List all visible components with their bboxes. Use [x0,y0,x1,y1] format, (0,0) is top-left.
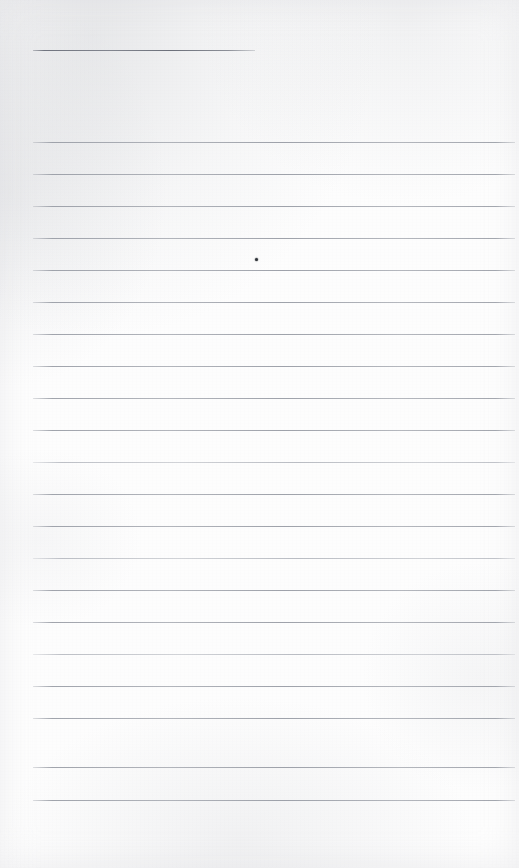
ruled-line [33,430,515,431]
ruled-line [33,462,515,463]
paper-background [0,0,519,868]
ruled-line [33,526,515,527]
pen-dot [255,258,258,261]
ruled-line [33,238,515,239]
ruled-line [33,142,515,143]
ruled-line [33,622,515,623]
ruled-line [33,494,515,495]
ruled-line [33,398,515,399]
ruled-line [33,800,515,801]
notebook-page [0,0,519,868]
ruled-line [33,686,515,687]
ruled-line [33,334,515,335]
ruled-line [33,366,515,367]
ruled-line [33,767,515,768]
ruled-line [33,590,515,591]
ruled-line [33,558,515,559]
ruled-line [33,270,515,271]
ruled-line [33,654,515,655]
ruled-line [33,174,515,175]
ruled-line [33,302,515,303]
ruled-line [33,206,515,207]
ruled-line [33,718,515,719]
header-rule [33,50,255,51]
